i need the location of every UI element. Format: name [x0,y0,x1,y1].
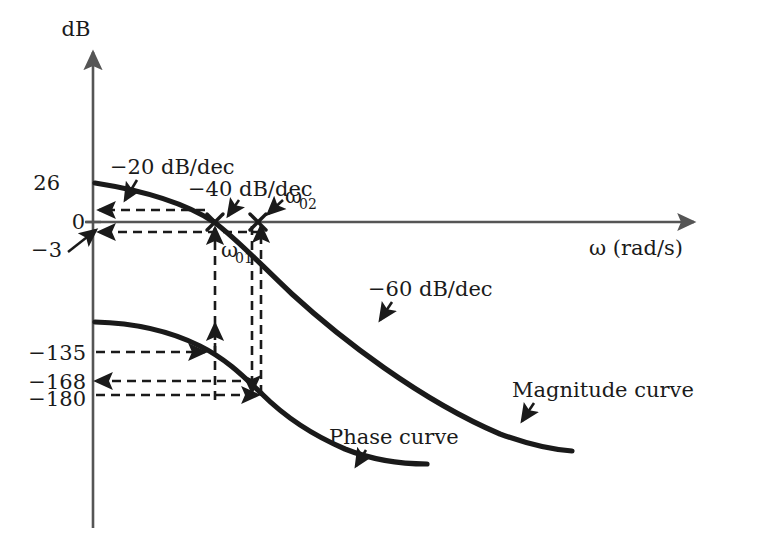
x-axis-title: ω (rad/s) [589,236,683,260]
slope-minus-60-arrow [380,302,392,320]
omega01-subscript: 01 [235,250,253,266]
bode-plot-figure: dB ω (rad/s) 26 0 −3 −135 −168 −180 [0,0,759,552]
y-axis-title: dB [62,17,91,41]
y-tick-label-minus-180: −180 [28,387,86,411]
y-tick-label-minus-3: −3 [31,238,62,262]
omega01-label-group: ω 01 [221,238,253,266]
phase-curve-label: Phase curve [329,425,459,449]
magnitude-curve-label-arrow [522,403,534,421]
slope-minus-40-arrow [228,200,239,216]
y-tick-label-0: 0 [72,210,85,234]
slope-label-minus-20: −20 dB/dec [110,155,235,179]
omega02-pointer-arrow [268,200,283,214]
magnitude-curve-label: Magnitude curve [512,378,694,402]
y-tick-label-minus-135: −135 [28,341,86,365]
bode-plot-canvas: dB ω (rad/s) 26 0 −3 −135 −168 −180 [0,0,759,552]
y-tick-label-26: 26 [33,171,60,195]
omega02-subscript: 02 [299,196,317,212]
slope-label-minus-60: −60 dB/dec [368,277,493,301]
